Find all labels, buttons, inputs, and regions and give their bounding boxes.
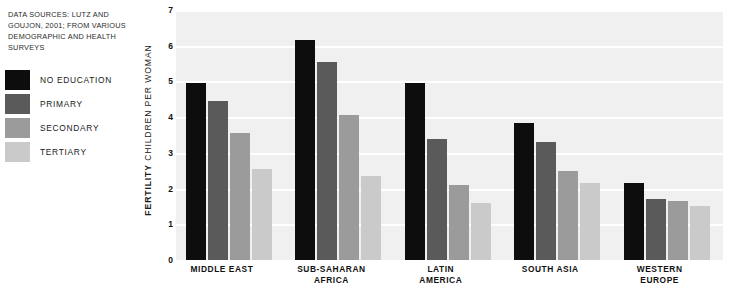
x-axis-category-label: MIDDLE EAST [174, 264, 270, 275]
y-axis-tick-label: 0 [155, 255, 173, 265]
x-axis-category: SOUTH ASIA [504, 264, 613, 294]
bar-groups [176, 10, 723, 260]
legend-item: TERTIARY [5, 140, 135, 164]
plot-area [176, 10, 723, 260]
bar [405, 83, 425, 260]
data-source-note: DATA SOURCES: LUTZ AND GOUJON, 2001; FRO… [8, 9, 140, 53]
x-axis-category: MIDDLE EAST [176, 264, 285, 294]
x-axis-category: SUB-SAHARANAFRICA [285, 264, 394, 294]
x-axis-category-label-line: MIDDLE EAST [174, 264, 270, 275]
x-axis-category-label-line: LATIN [393, 264, 489, 275]
x-axis-category-label-line: AMERICA [393, 275, 489, 286]
legend-item: SECONDARY [5, 116, 135, 140]
chart-legend: NO EDUCATIONPRIMARYSECONDARYTERTIARY [5, 68, 135, 164]
legend-item-label: SECONDARY [40, 123, 99, 133]
bar [186, 83, 206, 260]
bar-group [395, 10, 504, 260]
bar-group [285, 10, 394, 260]
bar [580, 183, 600, 260]
x-axis-category: WESTERNEUROPE [614, 264, 723, 294]
bar [514, 123, 534, 261]
y-axis-title-strong: FERTILITY [143, 164, 153, 216]
bar [536, 142, 556, 260]
legend-swatch [5, 94, 30, 114]
legend-item-label: TERTIARY [40, 147, 87, 157]
bar-group [176, 10, 285, 260]
bar-group [614, 10, 723, 260]
x-axis-category: LATINAMERICA [395, 264, 504, 294]
x-axis-category-label: SUB-SAHARANAFRICA [283, 264, 379, 285]
y-axis-tick-label: 2 [155, 184, 173, 194]
bar [646, 199, 666, 260]
x-axis-category-label: SOUTH ASIA [502, 264, 598, 275]
legend-swatch [5, 70, 30, 90]
y-axis-tick-label: 6 [155, 41, 173, 51]
x-axis-category-label-line: AFRICA [283, 275, 379, 286]
bar [208, 101, 228, 260]
legend-item-label: NO EDUCATION [40, 75, 112, 85]
bar [252, 169, 272, 260]
x-axis-category-label: WESTERNEUROPE [612, 264, 708, 285]
bar-group [504, 10, 613, 260]
x-axis-category-labels: MIDDLE EASTSUB-SAHARANAFRICALATINAMERICA… [176, 264, 723, 294]
bar [427, 139, 447, 260]
legend-swatch [5, 142, 30, 162]
x-axis-category-label: LATINAMERICA [393, 264, 489, 285]
bar [317, 62, 337, 260]
bar [339, 115, 359, 260]
bar [295, 40, 315, 260]
legend-swatch [5, 118, 30, 138]
bar [449, 185, 469, 260]
legend-item: PRIMARY [5, 92, 135, 116]
bar [624, 183, 644, 260]
bar [230, 133, 250, 260]
y-axis-tick-label: 4 [155, 112, 173, 122]
y-axis-tick-label: 3 [155, 148, 173, 158]
y-axis-title-rest: CHILDREN PER WOMAN [143, 44, 153, 164]
y-axis-tick-labels: 01234567 [155, 0, 173, 294]
bar [558, 171, 578, 260]
y-axis-tick-label: 7 [155, 5, 173, 15]
x-axis-category-label-line: WESTERN [612, 264, 708, 275]
y-axis-title: FERTILITY CHILDREN PER WOMAN [141, 0, 155, 260]
bar [361, 176, 381, 260]
bar [668, 201, 688, 260]
x-axis-category-label-line: SUB-SAHARAN [283, 264, 379, 275]
legend-item: NO EDUCATION [5, 68, 135, 92]
y-axis-tick-label: 1 [155, 219, 173, 229]
fertility-by-education-chart: DATA SOURCES: LUTZ AND GOUJON, 2001; FRO… [0, 0, 749, 294]
x-axis-category-label-line: SOUTH ASIA [502, 264, 598, 275]
legend-item-label: PRIMARY [40, 99, 83, 109]
bar [690, 206, 710, 260]
x-axis-category-label-line: EUROPE [612, 275, 708, 286]
y-axis-tick-label: 5 [155, 76, 173, 86]
bar [471, 203, 491, 260]
